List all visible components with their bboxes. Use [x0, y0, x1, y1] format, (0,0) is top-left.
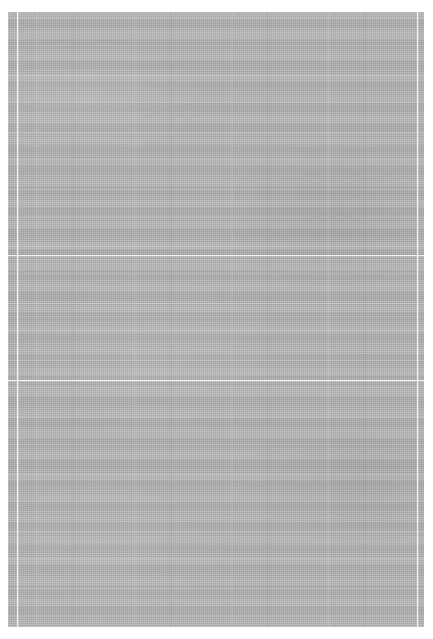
seam-line-lower [8, 380, 424, 381]
seam-line-upper [8, 255, 424, 256]
swatch-canvas [0, 0, 433, 639]
weave-tonal-mottling [8, 12, 424, 627]
fabric-swatch [8, 12, 424, 627]
seam-line-right [417, 12, 418, 627]
seam-line-left [17, 12, 18, 627]
